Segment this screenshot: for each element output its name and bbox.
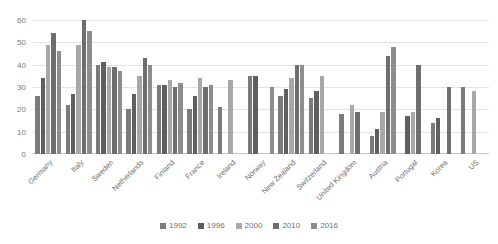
legend-item[interactable]: 1992 bbox=[160, 222, 187, 230]
bar bbox=[391, 47, 395, 154]
bar bbox=[375, 129, 379, 154]
bar bbox=[137, 76, 141, 154]
bar-slot bbox=[270, 20, 274, 154]
bar-slot bbox=[198, 20, 202, 154]
bar bbox=[57, 51, 61, 154]
bar-slot bbox=[187, 20, 191, 154]
bar bbox=[472, 91, 476, 154]
bar bbox=[461, 87, 465, 154]
legend-item[interactable]: 2010 bbox=[273, 222, 300, 230]
bar-slot bbox=[143, 20, 147, 154]
bar-slot bbox=[259, 20, 263, 154]
bar-slot bbox=[51, 20, 55, 154]
legend-swatch-icon bbox=[198, 223, 204, 229]
bar-slot bbox=[350, 20, 354, 154]
bar bbox=[253, 76, 257, 154]
bar bbox=[289, 78, 293, 154]
category-cell: France bbox=[185, 156, 215, 208]
bar-slot bbox=[82, 20, 86, 154]
bar-group bbox=[94, 20, 124, 154]
bar-slot bbox=[375, 20, 379, 154]
legend-label: 1992 bbox=[169, 222, 187, 230]
bars-layer bbox=[33, 20, 489, 154]
bar-slot bbox=[162, 20, 166, 154]
bar-slot bbox=[452, 20, 456, 154]
bar-slot bbox=[71, 20, 75, 154]
legend-label: 2010 bbox=[282, 222, 300, 230]
legend-item[interactable]: 1996 bbox=[198, 222, 225, 230]
bar-slot bbox=[422, 20, 426, 154]
bar bbox=[143, 58, 147, 154]
bar bbox=[101, 62, 105, 154]
bar-group bbox=[398, 20, 428, 154]
category-cell: Germany bbox=[33, 156, 63, 208]
chart-legend: 19921996200020102016 bbox=[0, 222, 498, 230]
bar-slot bbox=[96, 20, 100, 154]
bar bbox=[295, 65, 299, 154]
y-axis-tick-label: 30 bbox=[0, 83, 26, 92]
y-axis-tick-label: 10 bbox=[0, 127, 26, 136]
category-label: Korea bbox=[429, 158, 450, 179]
bar bbox=[416, 65, 420, 154]
bar bbox=[436, 118, 440, 154]
bar bbox=[218, 107, 222, 154]
legend-swatch-icon bbox=[160, 223, 166, 229]
bar bbox=[41, 78, 45, 154]
bar-slot bbox=[355, 20, 359, 154]
category-cell: Finland bbox=[155, 156, 185, 208]
bar-group bbox=[276, 20, 306, 154]
legend-item[interactable]: 2016 bbox=[311, 222, 338, 230]
legend-item[interactable]: 2000 bbox=[236, 222, 263, 230]
bar-slot bbox=[218, 20, 222, 154]
bar-slot bbox=[391, 20, 395, 154]
legend-swatch-icon bbox=[311, 223, 317, 229]
bar-slot bbox=[118, 20, 122, 154]
bar bbox=[107, 67, 111, 154]
bar-slot bbox=[223, 20, 227, 154]
bar-slot bbox=[107, 20, 111, 154]
legend-label: 2000 bbox=[245, 222, 263, 230]
y-axis-tick-label: 40 bbox=[0, 60, 26, 69]
bar-slot bbox=[461, 20, 465, 154]
bar-slot bbox=[278, 20, 282, 154]
bar-slot bbox=[400, 20, 404, 154]
bar-slot bbox=[57, 20, 61, 154]
bar bbox=[350, 105, 354, 154]
category-label: Norway bbox=[243, 158, 267, 182]
bar-slot bbox=[137, 20, 141, 154]
bar-slot bbox=[309, 20, 313, 154]
plot-area bbox=[33, 20, 489, 154]
bar-slot bbox=[466, 20, 470, 154]
bar bbox=[405, 116, 409, 154]
bar-slot bbox=[178, 20, 182, 154]
bar-slot bbox=[300, 20, 304, 154]
bar-slot bbox=[41, 20, 45, 154]
bar bbox=[112, 67, 116, 154]
bar-slot bbox=[477, 20, 481, 154]
bar bbox=[178, 83, 182, 154]
bar-group bbox=[337, 20, 367, 154]
legend-label: 2016 bbox=[320, 222, 338, 230]
bar bbox=[198, 78, 202, 154]
bar-slot bbox=[168, 20, 172, 154]
bar-slot bbox=[239, 20, 243, 154]
bar-slot bbox=[46, 20, 50, 154]
category-axis-labels: GermanyItalySwedenNetherlandsFinlandFran… bbox=[33, 156, 489, 208]
y-axis-tick-label: 60 bbox=[0, 16, 26, 25]
bar-slot bbox=[289, 20, 293, 154]
bar-slot bbox=[411, 20, 415, 154]
bar bbox=[46, 45, 50, 154]
bar-slot bbox=[345, 20, 349, 154]
bar bbox=[355, 112, 359, 154]
bar-slot bbox=[431, 20, 435, 154]
bar-group bbox=[215, 20, 245, 154]
y-axis-tick-label: 0 bbox=[0, 150, 26, 159]
bar-slot bbox=[209, 20, 213, 154]
bar-group bbox=[367, 20, 397, 154]
category-label: Germany bbox=[26, 158, 54, 186]
bar bbox=[162, 85, 166, 154]
bar-slot bbox=[436, 20, 440, 154]
bar bbox=[339, 114, 343, 154]
bar bbox=[157, 85, 161, 154]
bar-slot bbox=[173, 20, 177, 154]
